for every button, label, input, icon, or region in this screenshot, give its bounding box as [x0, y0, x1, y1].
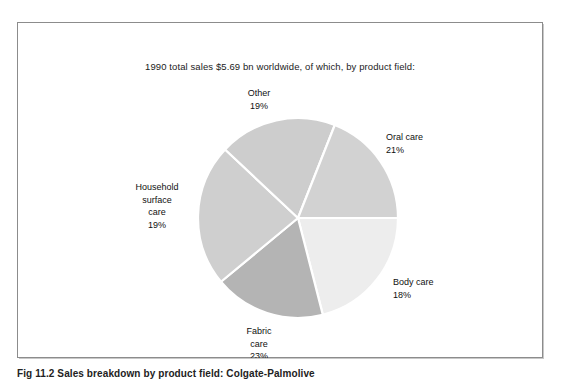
pie-label-oral-care-value: 21% — [386, 144, 482, 157]
pie-label-body-care: Body care 18% — [393, 276, 489, 301]
pie-label-household-surface-care: Household surface care 19% — [102, 181, 212, 231]
pie-label-other: Other 19% — [204, 87, 314, 112]
pie-label-other-value: 19% — [204, 100, 314, 113]
pie-label-fabric-care-name-2: care — [204, 338, 314, 351]
pie-label-household-surface-care-name-2: surface — [102, 194, 212, 207]
pie-label-fabric-care-name-1: Fabric — [204, 325, 314, 338]
pie-label-oral-care: Oral care 21% — [386, 131, 482, 156]
figure-page: 1990 total sales $5.69 bn worldwide, of … — [0, 0, 563, 380]
pie-label-household-surface-care-name-3: care — [102, 206, 212, 219]
pie-chart — [196, 116, 400, 320]
pie-slice-group — [198, 118, 398, 318]
figure-caption: Fig 11.2 Sales breakdown by product fiel… — [17, 368, 547, 379]
chart-title: 1990 total sales $5.69 bn worldwide, of … — [18, 61, 542, 72]
pie-label-oral-care-name: Oral care — [386, 131, 482, 144]
figure-frame: 1990 total sales $5.69 bn worldwide, of … — [17, 22, 543, 358]
pie-label-fabric-care: Fabric care 23% — [204, 325, 314, 363]
pie-label-fabric-care-value: 23% — [204, 350, 314, 363]
pie-chart-svg — [196, 116, 400, 320]
pie-label-household-surface-care-name-1: Household — [102, 181, 212, 194]
pie-label-household-surface-care-value: 19% — [102, 219, 212, 232]
pie-label-body-care-value: 18% — [393, 289, 489, 302]
pie-label-body-care-name: Body care — [393, 276, 489, 289]
pie-label-other-name: Other — [204, 87, 314, 100]
